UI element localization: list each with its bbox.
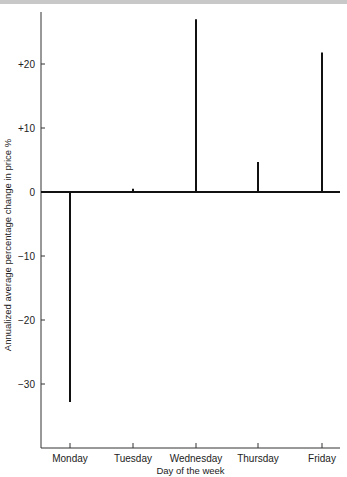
axes bbox=[41, 12, 340, 448]
labels: +20+100−10−20−30MondayTuesdayWednesdayTh… bbox=[2, 59, 336, 477]
y-tick-label: −10 bbox=[18, 251, 35, 262]
y-tick-label: −30 bbox=[18, 379, 35, 390]
x-tick-label: Tuesday bbox=[114, 453, 152, 464]
x-tick-label: Thursday bbox=[237, 453, 279, 464]
y-tick-label: +20 bbox=[18, 59, 35, 70]
x-axis-title: Day of the week bbox=[156, 465, 224, 476]
x-tick-label: Friday bbox=[308, 453, 336, 464]
y-tick-label: +10 bbox=[18, 123, 35, 134]
bars bbox=[70, 19, 322, 402]
bar-chart: +20+100−10−20−30MondayTuesdayWednesdayTh… bbox=[0, 0, 347, 477]
x-tick-label: Monday bbox=[52, 453, 88, 464]
y-tick-label: 0 bbox=[29, 187, 35, 198]
y-tick-label: −20 bbox=[18, 315, 35, 326]
x-tick-label: Wednesday bbox=[170, 453, 223, 464]
y-axis-title: Annualized average percentage change in … bbox=[2, 138, 13, 351]
